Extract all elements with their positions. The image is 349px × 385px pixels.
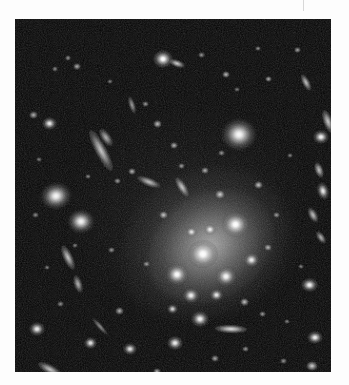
registration-tick-mark [303,0,304,11]
sky-background [15,19,331,372]
photo-page: Deep field image of a rich galaxy cluste… [0,0,349,385]
astronomical-plate [15,19,331,372]
